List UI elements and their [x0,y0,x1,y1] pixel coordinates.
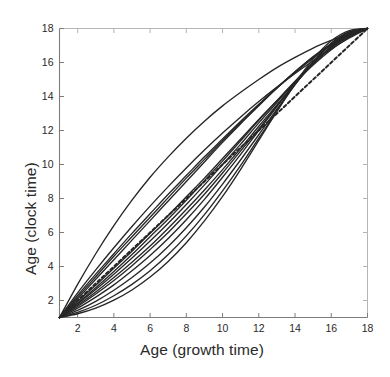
svg-text:6: 6 [147,322,153,334]
figure-container: 2468101214161824681012141618 Age (growth… [0,0,390,377]
svg-text:8: 8 [183,322,189,334]
svg-text:12: 12 [253,322,265,334]
svg-text:14: 14 [42,90,54,102]
svg-text:16: 16 [325,322,337,334]
svg-text:16: 16 [42,56,54,68]
svg-text:12: 12 [42,124,54,136]
svg-text:6: 6 [48,226,54,238]
svg-text:8: 8 [48,192,54,204]
svg-text:10: 10 [42,158,54,170]
svg-text:14: 14 [289,322,301,334]
chart-canvas: 2468101214161824681012141618 [0,0,390,377]
svg-text:18: 18 [42,22,54,34]
svg-text:18: 18 [362,322,374,334]
svg-text:4: 4 [111,322,117,334]
svg-text:2: 2 [75,322,81,334]
svg-text:4: 4 [48,260,54,272]
svg-text:2: 2 [48,294,54,306]
svg-text:10: 10 [217,322,229,334]
y-axis-label: Age (clock time) [22,162,40,275]
x-axis-label: Age (growth time) [14,341,390,359]
